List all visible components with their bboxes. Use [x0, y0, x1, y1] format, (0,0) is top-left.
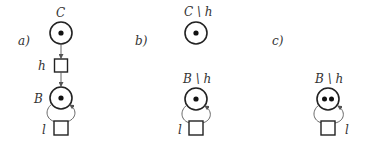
token	[322, 97, 327, 102]
panel-c-label: c)	[272, 34, 284, 48]
place-b-minus-h-label: B \ h	[314, 72, 343, 86]
transition-l	[189, 121, 203, 135]
panel-b-label: b)	[135, 34, 148, 48]
token	[329, 97, 334, 102]
panel-a: a) C h B l	[18, 6, 75, 137]
token	[193, 96, 198, 101]
transition-h-label: h	[38, 59, 46, 73]
transition-l-label: l	[42, 123, 46, 137]
place-b-minus-h	[317, 88, 339, 110]
transition-h	[55, 59, 68, 72]
transition-l	[321, 121, 335, 135]
arc-l-to-b	[335, 106, 343, 123]
transition-l	[54, 121, 68, 135]
token	[58, 30, 63, 35]
place-c-minus-h-label: C \ h	[184, 5, 213, 19]
panel-a-label: a)	[18, 34, 30, 48]
token	[193, 30, 198, 35]
panel-c: c) B \ h l	[272, 34, 349, 137]
place-b-minus-h-label: B \ h	[182, 72, 211, 86]
token	[58, 95, 63, 100]
panel-b: b) C \ h B \ h l	[135, 5, 213, 137]
place-c-label: C	[56, 6, 65, 20]
transition-l-label: l	[178, 123, 182, 137]
transition-l-label: l	[345, 123, 349, 137]
petri-net-figure: a) C h B l b) C \ h B \ h l c) B \ h	[0, 0, 369, 147]
place-b-label: B	[33, 92, 43, 106]
